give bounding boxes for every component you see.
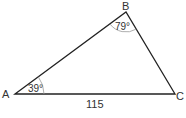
triangle-abc bbox=[15, 12, 175, 94]
vertex-label-c: C bbox=[176, 90, 184, 102]
vertex-label-b: B bbox=[122, 0, 129, 12]
angle-label-b: 79° bbox=[115, 21, 130, 32]
triangle-diagram: A B C 39° 79° 115 bbox=[0, 0, 186, 118]
side-label-ac: 115 bbox=[86, 98, 104, 110]
vertex-label-a: A bbox=[2, 88, 10, 100]
angle-label-a: 39° bbox=[28, 83, 43, 94]
